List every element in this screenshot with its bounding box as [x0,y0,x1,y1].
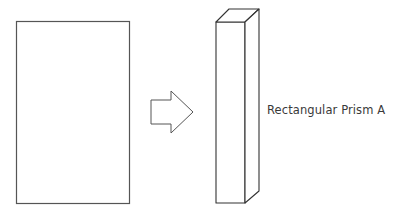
diagram-canvas: Rectangular Prism A [0,0,396,214]
prism-front-face [216,22,245,203]
source-rectangle [17,22,130,204]
prism-label: Rectangular Prism A [267,103,385,117]
rectangular-prism [216,9,259,203]
right-arrow-icon [151,91,193,133]
prism-side-face [245,9,259,203]
